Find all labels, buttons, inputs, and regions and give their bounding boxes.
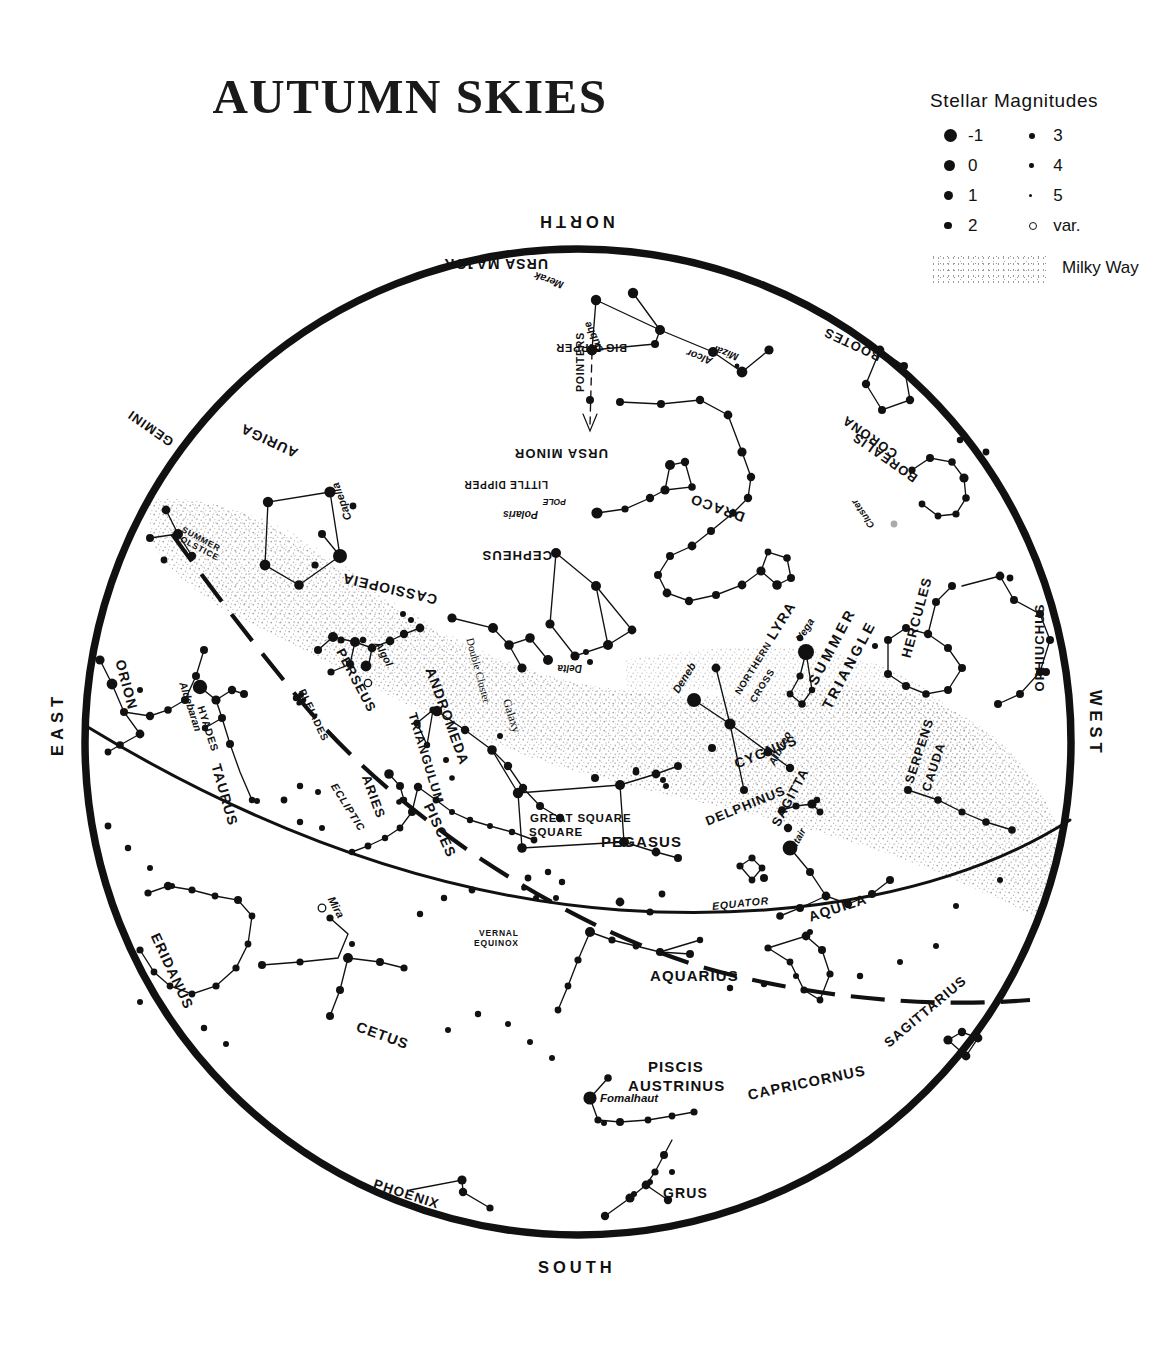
star-chart-canvas [0, 0, 1173, 1351]
compass-west: WEST [1086, 690, 1105, 758]
label-pegasus: PEGASUS [601, 833, 682, 850]
label-pointers: POINTERS [574, 332, 586, 392]
label-fomalhaut: Fomalhaut [600, 1092, 658, 1104]
label-ursa-minor: URSA MINOR [514, 446, 608, 461]
label-ophiuchus: OPHIUCHUS [1032, 604, 1047, 692]
compass-east: EAST [48, 692, 67, 756]
label-vernal-equinox-line2: EQUINOX [474, 938, 519, 948]
label-ursa-major: URSA MAJOR [443, 256, 548, 272]
label-cepheus: CEPHEUS [481, 548, 552, 563]
label-delta: Delta [558, 663, 582, 674]
label-vernal-equinox: VERNAL [479, 928, 519, 938]
compass-north: NORTH [536, 212, 615, 231]
label-great-square: GREAT SQUARE [530, 812, 631, 824]
label-piscis-austrinus: PISCIS [648, 1058, 704, 1075]
label-grus: GRUS [663, 1185, 708, 1201]
compass-south: SOUTH [538, 1258, 616, 1277]
label-little-dipper: LITTLE DIPPER [464, 479, 548, 490]
label-great-square-line2: SQUARE [529, 826, 583, 838]
label-aquarius: AQUARIUS [650, 967, 739, 984]
star-chart: NORTH SOUTH EAST WEST URSA MAJOR BIG DIP… [0, 0, 1173, 1351]
milky-way-band [150, 499, 1068, 935]
label-polaris: Polaris [503, 509, 538, 521]
label-pole: POLE [543, 497, 566, 507]
